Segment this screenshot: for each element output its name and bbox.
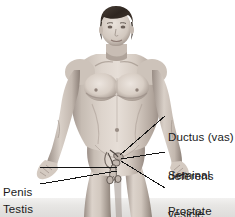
testis-organ-right <box>115 176 121 183</box>
right-ear <box>130 26 134 34</box>
label-prostate-gland: Prostate gland <box>168 179 212 217</box>
navel <box>115 128 119 132</box>
testis-organ-left <box>107 176 113 184</box>
label-prostate-gland-line1: Prostate <box>168 205 212 217</box>
label-testis-line1: Testis <box>3 203 33 216</box>
left-ear <box>99 26 103 34</box>
label-testis: Testis <box>3 177 33 217</box>
left-eye <box>108 26 113 29</box>
right-nipple <box>135 88 138 91</box>
right-eye <box>121 26 126 29</box>
left-nipple <box>94 88 97 91</box>
anatomy-figure: Ductus (vas) deferens Seminal vesicle Pr… <box>0 0 235 217</box>
